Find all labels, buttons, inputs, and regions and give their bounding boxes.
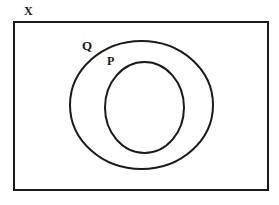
universal-set-label: X <box>24 5 33 17</box>
euler-diagram-graphic <box>0 0 279 205</box>
inner-set-ellipse <box>105 62 184 153</box>
inner-set-label: P <box>107 55 114 67</box>
outer-set-ellipse <box>70 41 213 169</box>
euler-diagram-canvas: X Q P <box>0 0 279 205</box>
outer-set-label: Q <box>82 39 92 52</box>
universal-set-rectangle <box>14 22 268 190</box>
